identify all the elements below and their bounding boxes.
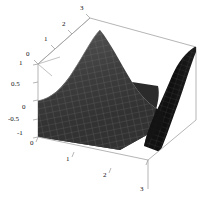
x-tick-label-0: 0 xyxy=(30,140,34,147)
x-tick-label-1: 1 xyxy=(66,156,70,163)
surface-plot-figure: 1 0.5 0 -0.5 -1 0 1 2 3 0 1 2 3 xyxy=(0,0,207,200)
z-tick-label-0: 0 xyxy=(22,104,26,111)
z-tick-label-1: 1 xyxy=(19,60,23,67)
z-tick-label-minus-1: -1 xyxy=(17,130,23,137)
z-tick-label-0.5: 0.5 xyxy=(11,81,20,88)
z-tick-label-minus-0.5: -0.5 xyxy=(8,116,19,123)
y-tick-label-2: 2 xyxy=(62,21,66,28)
y-tick-label-0: 0 xyxy=(26,51,30,58)
axis-corner-connectors xyxy=(38,57,60,76)
x-tick-label-3: 3 xyxy=(140,186,144,193)
y-tick-label-1: 1 xyxy=(44,36,48,43)
x-tick-label-2: 2 xyxy=(103,172,107,179)
surface-mesh xyxy=(38,30,196,152)
y-tick-label-3: 3 xyxy=(80,5,84,12)
plot-canvas xyxy=(0,0,207,200)
